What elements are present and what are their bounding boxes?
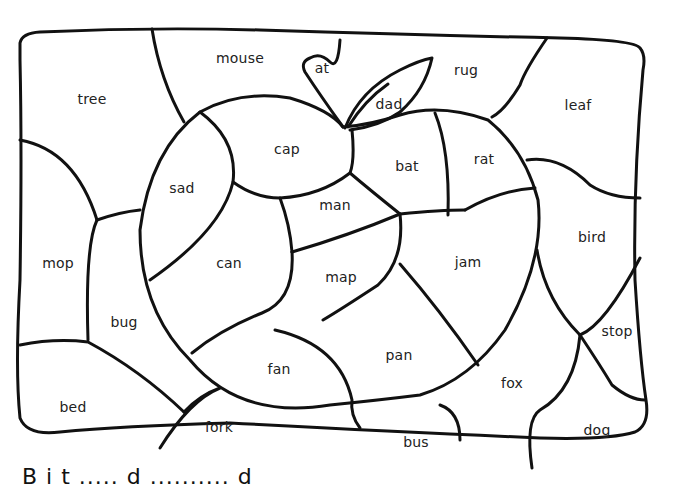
- divider: [435, 113, 448, 215]
- region-label-bird: bird: [578, 229, 606, 245]
- region-label-bug: bug: [110, 314, 137, 330]
- region-label-man: man: [319, 197, 351, 213]
- divider: [530, 335, 580, 468]
- divider: [292, 210, 465, 252]
- region-label-rat: rat: [474, 151, 494, 167]
- divider: [20, 341, 184, 412]
- region-label-fan: fan: [268, 361, 291, 377]
- divider: [97, 210, 140, 220]
- region-label-map: map: [325, 269, 357, 285]
- region-label-dog: dog: [584, 422, 611, 438]
- region-label-fork: fork: [205, 419, 233, 435]
- region-label-rug: rug: [454, 62, 478, 78]
- region-label-mop: mop: [42, 255, 74, 271]
- apple-leaf: [345, 58, 432, 130]
- divider: [152, 29, 184, 122]
- region-label-sad: sad: [169, 180, 194, 196]
- divider: [580, 335, 645, 400]
- region-label-jam: jam: [455, 254, 482, 270]
- divider: [465, 188, 535, 210]
- region-label-leaf: leaf: [565, 97, 592, 113]
- region-label-tree: tree: [78, 91, 107, 107]
- region-label-at: at: [315, 60, 329, 76]
- apple-outline: [140, 96, 539, 408]
- region-label-bed: bed: [60, 399, 87, 415]
- region-label-fox: fox: [501, 375, 523, 391]
- divider: [87, 220, 97, 340]
- divider: [350, 173, 400, 214]
- instructions-text-partial: B i t ..... d .......... d: [22, 464, 253, 484]
- region-label-bat: bat: [395, 158, 419, 174]
- divider: [527, 159, 640, 198]
- region-label-pan: pan: [386, 347, 413, 363]
- region-label-can: can: [216, 255, 242, 271]
- divider: [20, 140, 97, 220]
- region-label-bus: bus: [403, 434, 429, 450]
- apple-stem: [303, 40, 343, 127]
- divider: [280, 198, 292, 252]
- region-label-stop: stop: [601, 323, 632, 339]
- region-label-dad: dad: [376, 96, 403, 112]
- divider: [192, 252, 292, 353]
- outer-border: [18, 29, 647, 439]
- divider: [492, 38, 547, 117]
- region-label-mouse: mouse: [216, 50, 264, 66]
- divider: [275, 330, 360, 428]
- region-label-cap: cap: [274, 141, 300, 157]
